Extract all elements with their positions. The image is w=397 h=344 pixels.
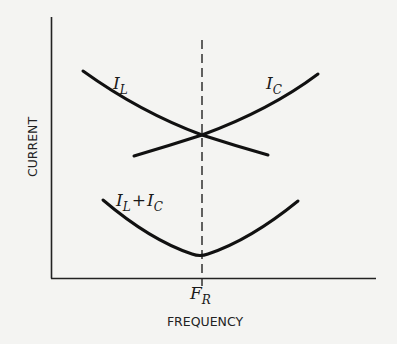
resonance-diagram: IL IC IL+IC FR FREQUENCY CURRENT <box>0 0 397 344</box>
label-il-plus-ic: IL+IC <box>115 190 163 214</box>
y-axis-label: CURRENT <box>25 117 40 177</box>
label-fr: FR <box>189 283 211 307</box>
x-axis-label: FREQUENCY <box>167 314 244 329</box>
label-ic: IC <box>265 73 282 97</box>
